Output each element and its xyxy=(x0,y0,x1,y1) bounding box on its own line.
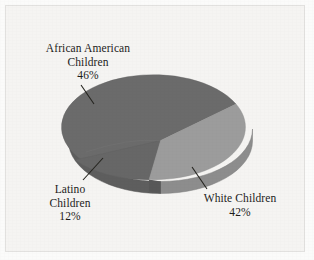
scanned-page: African American Children 46% Latino Chi… xyxy=(0,0,314,260)
pie-value-white: 42% xyxy=(182,206,298,220)
pie-label-african-american-line1: African American xyxy=(46,42,130,54)
pie-side-cut-face xyxy=(149,180,161,194)
pie-label-african-american: African American Children 46% xyxy=(22,42,154,83)
pie-label-latino-line2: Children xyxy=(49,197,90,209)
pie-value-latino: 12% xyxy=(18,210,122,224)
pie-label-white-line1: White Children xyxy=(204,192,277,204)
pie-label-african-american-line2: Children xyxy=(67,56,108,68)
pie-label-white: White Children 42% xyxy=(182,192,298,219)
pie-top-face xyxy=(61,75,245,180)
pie-value-african-american: 46% xyxy=(22,69,154,83)
pie-label-latino-line1: Latino xyxy=(55,183,86,195)
pie-label-latino: Latino Children 12% xyxy=(18,183,122,224)
